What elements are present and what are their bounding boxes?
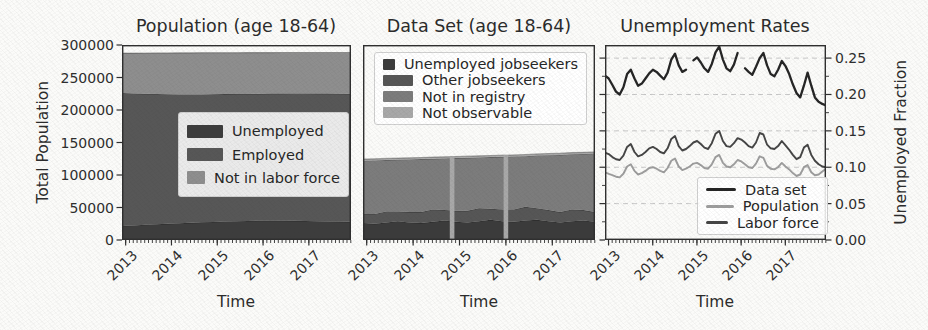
legend-label: Unemployed (232, 123, 324, 139)
legend-item: Unemployed (187, 123, 340, 139)
legend-label: Population (743, 198, 819, 214)
not-observable-stripe (450, 157, 455, 241)
y-tick-label: 0 (52, 231, 114, 249)
legend-item: Population (706, 198, 819, 214)
unemployed-fraction-label: Unemployed Fraction (892, 60, 910, 225)
y-tick-label: 0.00 (835, 231, 883, 249)
chart-title-rates: Unemployment Rates (595, 14, 835, 38)
y-axis-label-right: Unemployed Fraction (891, 45, 911, 240)
legend-color-patch (187, 148, 223, 161)
legend-label: Not in labor force (214, 170, 340, 186)
legend-label: Not in registry (422, 89, 525, 105)
legend-item: Not in labor force (187, 170, 340, 186)
legend-item: Other jobseekers (383, 72, 578, 88)
chart-title-population: Population (age 18-64) (116, 14, 356, 38)
legend-color-patch (383, 75, 413, 86)
x-tick-label: 2015 (667, 247, 711, 291)
legend-color-patch (187, 171, 205, 184)
legend-label: Not observable (422, 105, 532, 121)
legend-color-patch (383, 91, 413, 102)
x-tick-label: 2016 (476, 247, 520, 291)
area-not-in-registry (363, 154, 595, 215)
x-tick-label: 2017 (523, 247, 567, 291)
x-tick-label: 2015 (188, 247, 232, 291)
legend-item: Labor force (706, 215, 819, 231)
population-legend: UnemployedEmployedNot in labor force (178, 112, 349, 197)
rates-legend: Data setPopulationLabor force (697, 177, 828, 235)
legend-item: Unemployed jobseekers (383, 56, 578, 72)
x-axis-label-dataset: Time (419, 292, 539, 312)
area-not-in-labor-force (122, 53, 351, 95)
legend-color-patch (383, 59, 395, 70)
legend-label: Data set (745, 182, 806, 198)
y-tick-label: 0.15 (835, 122, 883, 140)
y-tick-label: 200000 (52, 101, 114, 119)
legend-line-swatch (706, 221, 728, 224)
legend-label: Labor force (737, 215, 819, 231)
y-tick-label: 150000 (52, 134, 114, 152)
y-tick-label: 300000 (52, 36, 114, 54)
x-tick-label: 2014 (623, 247, 667, 291)
legend-item: Not observable (383, 105, 578, 121)
legend-color-patch (383, 107, 413, 118)
y-tick-label: 50000 (52, 199, 114, 217)
x-tick-label: 2015 (430, 247, 474, 291)
x-tick-label: 2017 (279, 247, 323, 291)
legend-item: Not in registry (383, 89, 578, 105)
not-observable-stripe (504, 155, 509, 240)
y-tick-label: 0.25 (835, 49, 883, 67)
legend-color-patch (187, 125, 223, 138)
legend-label: Employed (232, 147, 304, 163)
y-tick-label: 0.20 (835, 85, 883, 103)
total-population-label: Total Population (34, 81, 52, 204)
x-tick-label: 2013 (96, 247, 140, 291)
legend-line-swatch (706, 205, 734, 208)
dataset-legend: Unemployed jobseekersOther jobseekersNot… (374, 52, 587, 125)
x-tick-label: 2016 (234, 247, 278, 291)
x-tick-label: 2017 (756, 247, 800, 291)
x-tick-label: 2013 (337, 247, 381, 291)
y-tick-label: 250000 (52, 69, 114, 87)
chart-title-dataset: Data Set (age 18-64) (359, 14, 599, 38)
area-edge (122, 53, 351, 54)
y-tick-label: 100000 (52, 166, 114, 184)
x-axis-label-population: Time (176, 292, 296, 312)
line-labor-force (605, 131, 826, 167)
legend-item: Data set (706, 182, 819, 198)
legend-item: Employed (187, 147, 340, 163)
y-tick-label: 0.10 (835, 158, 883, 176)
line-population (605, 155, 826, 178)
x-tick-label: 2014 (384, 247, 428, 291)
figure: Population (age 18-64) Data Set (age 18-… (0, 0, 928, 330)
x-axis-label-rates: Time (655, 292, 775, 312)
legend-label: Unemployed jobseekers (404, 56, 578, 72)
y-axis-label-left: Total Population (33, 45, 53, 240)
x-tick-label: 2013 (579, 247, 623, 291)
x-tick-label: 2016 (712, 247, 756, 291)
legend-label: Other jobseekers (422, 72, 546, 88)
x-tick-label: 2014 (142, 247, 186, 291)
legend-line-swatch (706, 188, 736, 191)
line-data-set (605, 47, 826, 106)
y-tick-label: 0.05 (835, 195, 883, 213)
